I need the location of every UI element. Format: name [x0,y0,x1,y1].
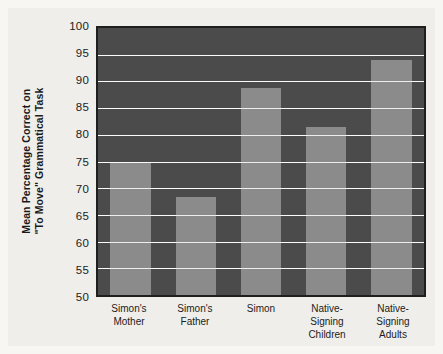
x-axis-tick-label-line: Father [163,315,227,328]
x-axis-tick-label: Simon'sFather [162,302,228,341]
y-axis-title-line-2: "To Move" Grammatical Task [33,88,46,235]
x-axis-tick-labels: Simon'sMotherSimon'sFatherSimonNative-Si… [96,302,426,341]
figure: Mean Percentage Correct on "To Move" Gra… [0,0,443,354]
bar [371,60,411,295]
x-axis-tick-label-line: Simon [229,302,293,315]
x-axis-tick-label-line: Native-Signing [361,302,425,328]
y-axis-tick-label: 80 [76,128,89,140]
bar-slot [359,28,424,295]
chart-canvas: Mean Percentage Correct on "To Move" Gra… [0,0,443,354]
x-axis-tick-label-line: Mother [97,315,161,328]
x-axis-tick-label-line: Simon's [163,302,227,315]
bar [241,88,281,295]
bar-slot [98,28,163,295]
y-axis-tick-labels: 10095908580757065605550 [56,26,92,297]
bar [306,127,346,295]
y-axis-tick-label: 95 [76,47,89,59]
plot-area [96,26,426,297]
x-axis-tick-label: Simon'sMother [96,302,162,341]
x-axis-tick-label-line: Adults [361,328,425,341]
y-axis-title: Mean Percentage Correct on "To Move" Gra… [10,26,56,297]
y-axis-tick-label: 55 [76,264,89,276]
bar-series [98,28,424,295]
bar-slot [163,28,228,295]
y-axis-tick-label: 50 [76,291,89,303]
x-axis-tick-label-line: Native-Signing [295,302,359,328]
bar-slot [294,28,359,295]
y-axis-tick-label: 60 [76,237,89,249]
bar [176,197,216,295]
y-axis-tick-label: 85 [76,101,89,113]
y-axis-tick-label: 90 [76,74,89,86]
x-axis-tick-label-line: Children [295,328,359,341]
y-axis-tick-label: 65 [76,210,89,222]
y-axis-tick-label: 70 [76,183,89,195]
x-axis-tick-label: Native-SigningAdults [360,302,426,341]
y-axis-title-line-1: Mean Percentage Correct on [20,88,33,235]
x-axis-tick-label: Simon [228,302,294,341]
x-axis-tick-label-line: Simon's [97,302,161,315]
y-axis-tick-label: 100 [69,20,89,32]
y-axis-tick-label: 75 [76,156,89,168]
bar [110,163,150,295]
bar-slot [228,28,293,295]
x-axis-tick-label: Native-SigningChildren [294,302,360,341]
